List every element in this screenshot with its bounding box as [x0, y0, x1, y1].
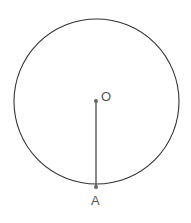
- circle-diagram: O A: [0, 0, 191, 223]
- center-point: [94, 99, 98, 103]
- point-a: [94, 185, 98, 189]
- label-a: A: [91, 193, 100, 208]
- label-o: O: [101, 89, 111, 104]
